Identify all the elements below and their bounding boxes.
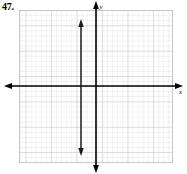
y-axis-label: y — [99, 3, 104, 11]
y-axis-arrow-down — [93, 165, 99, 173]
y-axis-arrow-up — [93, 1, 99, 9]
x-axis-label: x — [178, 88, 183, 96]
coordinate-plane-graph: y x — [0, 0, 187, 174]
x-axis-arrow-left — [4, 83, 12, 89]
graph-figure: 47. — [0, 0, 187, 174]
